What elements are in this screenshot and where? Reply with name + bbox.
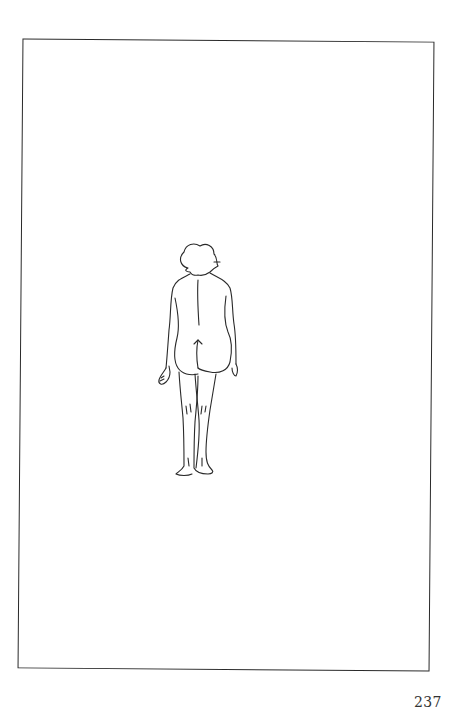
page-number: 237 [414, 694, 442, 710]
figure-illustration [158, 240, 242, 480]
